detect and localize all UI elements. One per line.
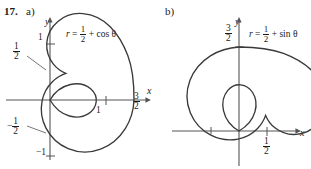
panel-a-limacon-outer-curve	[41, 13, 134, 151]
panel-b-limacon-outer-curve	[187, 47, 311, 140]
figure-graphics	[0, 0, 311, 169]
panel-a-axes	[6, 22, 146, 160]
figure-page: 17. a) b) y x r = 1 2 + cos θ 1 −1 1 1 2…	[0, 0, 311, 169]
panel-b-axes	[172, 22, 296, 166]
